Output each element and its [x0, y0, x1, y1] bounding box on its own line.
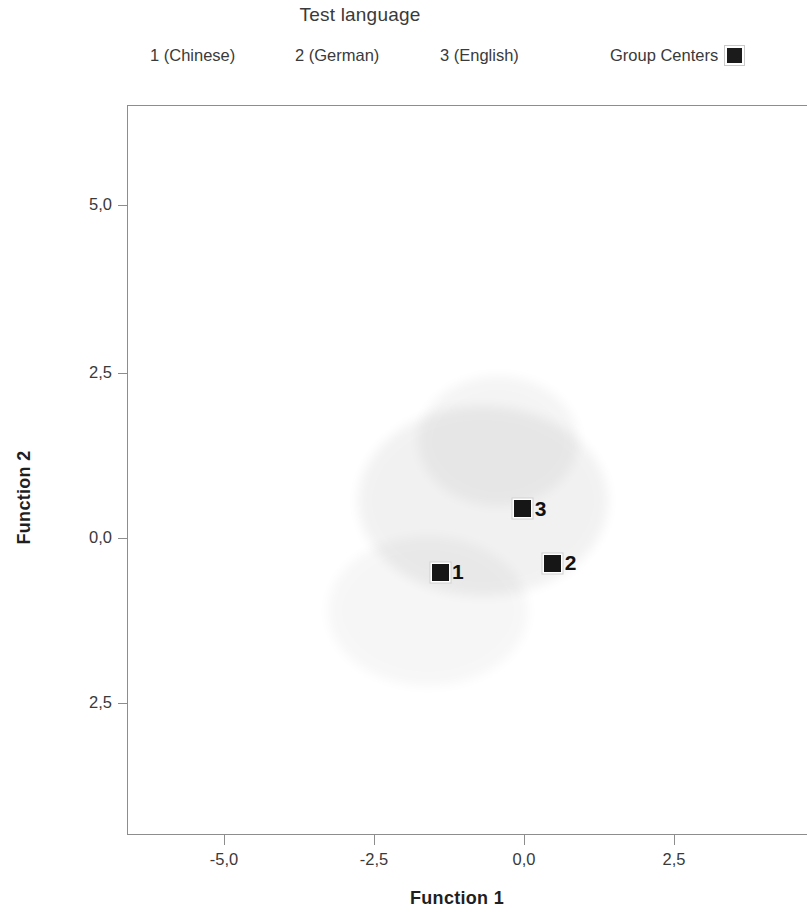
y-axis-title: Function 2 [14, 388, 35, 608]
x-tick-label: -5,0 [194, 850, 254, 869]
y-tick-label: 2,5 [60, 363, 112, 382]
legend-title: Test language [0, 4, 720, 26]
x-tick [224, 835, 225, 845]
x-tick [524, 835, 525, 845]
y-tick [118, 373, 128, 374]
legend-item-english: 3 (English) [440, 46, 519, 65]
y-tick [118, 703, 128, 704]
x-tick [674, 835, 675, 845]
x-tick-label: -2,5 [344, 850, 404, 869]
x-tick [374, 835, 375, 845]
scatter-haze [418, 376, 578, 506]
group-center-label: 3 [535, 498, 547, 519]
legend-item-group-centers: Group Centers [610, 46, 742, 65]
group-center-label: 1 [452, 561, 464, 582]
x-tick-label: 2,5 [644, 850, 704, 869]
scatter-haze [328, 536, 528, 686]
y-tick-label: 5,0 [60, 195, 112, 214]
x-tick-label: 0,0 [494, 850, 554, 869]
y-tick [118, 538, 128, 539]
group-center-marker [514, 500, 531, 517]
y-tick-label: 2,5 [60, 693, 112, 712]
group-center-label: 2 [565, 552, 577, 573]
x-axis-title: Function 1 [127, 888, 787, 909]
filled-square-icon [727, 48, 742, 63]
y-tick [118, 205, 128, 206]
legend-group-centers-label: Group Centers [610, 46, 718, 64]
plot-area [127, 105, 807, 835]
legend-item-chinese: 1 (Chinese) [150, 46, 235, 65]
y-tick-label: 0,0 [60, 528, 112, 547]
legend-item-german: 2 (German) [295, 46, 379, 65]
group-center-marker [432, 564, 449, 581]
group-center-marker [544, 555, 561, 572]
legend: 1 (Chinese) 2 (German) 3 (English) Group… [0, 46, 793, 72]
